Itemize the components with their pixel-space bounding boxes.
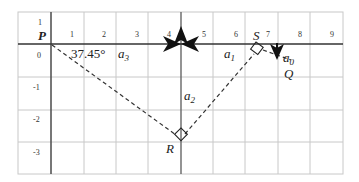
diagram-canvas: 1 2 3 4 5 6 7 8 9 1 0 -1 -2 -3 P S Q R bbox=[0, 0, 359, 182]
svg-text:-3: -3 bbox=[33, 148, 40, 157]
vector-diagram: 1 2 3 4 5 6 7 8 9 1 0 -1 -2 -3 P S Q R bbox=[0, 0, 359, 182]
svg-text:0: 0 bbox=[37, 51, 41, 60]
svg-text:1: 1 bbox=[70, 30, 74, 39]
svg-text:1: 1 bbox=[38, 18, 42, 27]
angle-label: 37.45° bbox=[71, 46, 105, 61]
svg-text:2: 2 bbox=[102, 30, 106, 39]
x-tick-labels: 1 2 3 4 5 6 7 8 9 bbox=[70, 30, 334, 39]
svg-text:-1: -1 bbox=[33, 83, 40, 92]
vector-label-a0: a0 bbox=[283, 50, 295, 67]
svg-text:8: 8 bbox=[298, 30, 302, 39]
point-label-r: R bbox=[165, 141, 174, 156]
svg-text:-2: -2 bbox=[33, 115, 40, 124]
vector-label-a1: a1 bbox=[224, 46, 235, 63]
svg-text:5: 5 bbox=[202, 30, 206, 39]
svg-text:9: 9 bbox=[330, 30, 334, 39]
svg-text:6: 6 bbox=[234, 30, 238, 39]
svg-text:3: 3 bbox=[135, 30, 139, 39]
vector-label-a2: a2 bbox=[184, 88, 196, 105]
point-label-p: P bbox=[38, 28, 47, 43]
vector-label-a3: a3 bbox=[118, 46, 130, 63]
svg-text:4: 4 bbox=[167, 30, 171, 39]
point-label-q: Q bbox=[284, 66, 294, 81]
point-label-s: S bbox=[253, 28, 260, 43]
svg-text:7: 7 bbox=[266, 30, 270, 39]
